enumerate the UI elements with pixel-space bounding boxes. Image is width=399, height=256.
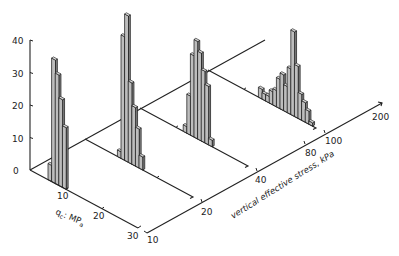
qc-tick-label-30: 30 [127,231,139,241]
stress-tick-label-40: 40 [255,175,267,185]
stress-tick-label-80: 80 [305,148,317,158]
z-tick-label-0: 0 [13,166,19,176]
qc-axis-line [30,170,138,228]
z-tick-label-40: 40 [12,36,24,46]
stress-tick-20 [201,199,202,202]
qc-tick-label-20: 20 [93,211,105,221]
histogram-20kpa [117,13,144,170]
histogram-bar [205,84,209,145]
histogram-bar [139,155,143,170]
histogram-10kpa [48,57,68,190]
stress-tick-label-100: 100 [325,136,342,146]
histogram-3d-chart: 0 10 20 30 40 10 20 30 10 20 40 80 100 2… [0,0,399,256]
qc-tick [102,207,104,209]
stress-tick-label-200: 200 [372,112,389,122]
histogram-40kpa [183,38,214,147]
stress-tick-40 [256,168,257,171]
stress-axis-title: vertical effective stress, kPa [229,148,336,220]
chart-floor [30,40,316,198]
svg-text:qc: MPa: qc: MPa [54,207,87,229]
histogram-100kpa [258,29,314,126]
stress-tick-label-10: 10 [147,235,159,245]
stress-axis-line [147,103,382,233]
z-tick-label-10: 10 [12,134,24,144]
z-tick-label-20: 20 [12,101,24,111]
qc-tick-label-10: 10 [57,191,69,201]
stress-tick-100 [324,130,325,133]
histogram-bar [62,126,66,190]
qc-axis-title: qc: MPa [54,207,87,229]
z-tick-label-30: 30 [12,69,24,79]
stress-tick-label-20: 20 [201,207,213,217]
stress-tick-80 [304,141,305,144]
